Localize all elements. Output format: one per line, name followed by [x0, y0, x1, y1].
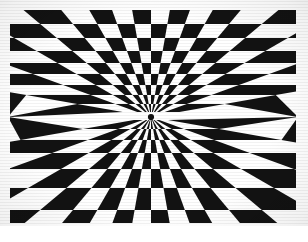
- checker-cell: [132, 10, 151, 24]
- checker-cell: [151, 210, 170, 223]
- radial-checkerboard-illustration: [0, 0, 308, 242]
- artwork-canvas: [0, 0, 308, 242]
- checker-cell: [151, 24, 167, 38]
- checker-cell: [137, 38, 151, 51]
- vanishing-point-knot: [148, 114, 154, 120]
- caption-whitespace: [0, 226, 308, 242]
